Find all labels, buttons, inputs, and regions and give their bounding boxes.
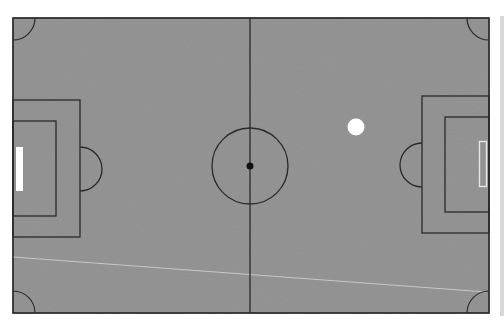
right-edge-strip [500, 16, 504, 316]
left-goal [16, 147, 23, 191]
soccer-pitch [0, 0, 504, 321]
ball [348, 119, 365, 136]
center-spot [247, 163, 254, 170]
